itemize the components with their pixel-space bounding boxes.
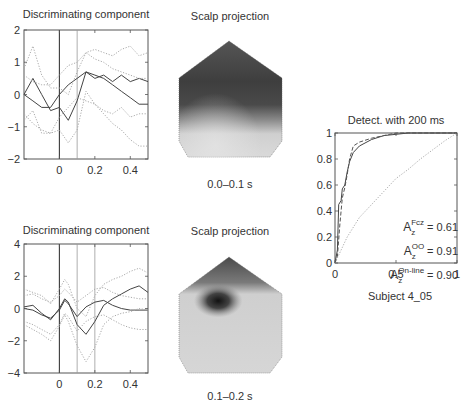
roc-y-tick-label: 0.2 — [317, 231, 332, 243]
top-scalp-map — [170, 36, 290, 162]
top-scalp-title: Scalp projection — [180, 10, 280, 22]
bottom-plot-x-tick-label: 0.2 — [87, 378, 102, 390]
bottom-plot-y-tick-label: 0 — [14, 303, 20, 315]
bottom-plot-y-tick-label: 2 — [14, 270, 20, 282]
roc-y-tick-label: 0.4 — [317, 205, 332, 217]
bottom-plot-x-tick-label: 0 — [56, 378, 62, 390]
roc-y-tick-label: 1 — [326, 127, 332, 139]
roc-legend-entry: AzFcz= 0.61 — [386, 218, 458, 242]
roc-legend-entry: AzOn-line= 0.90 — [386, 266, 458, 290]
bottom-plot-y-tick-label: 4 — [14, 238, 20, 250]
bottom-plot-axes-frame — [24, 244, 148, 373]
bottom-scalp-caption: 0.1–0.2 s — [180, 390, 280, 402]
roc-caption: Subject 4_05 — [350, 290, 450, 302]
roc-y-tick-label: 0.8 — [317, 153, 332, 165]
bottom-plot-x-tick-label: 0.4 — [123, 378, 138, 390]
roc-y-tick-label: 0.6 — [317, 179, 332, 191]
roc-x-tick-label: 0 — [332, 268, 338, 280]
roc-legend: AzFcz= 0.61AzOO= 0.91AzOn-line= 0.90 — [386, 218, 458, 290]
bottom-plot-series-line — [24, 268, 148, 316]
bottom-plot-series-line — [24, 309, 148, 362]
bottom-plot-y-tick-label: −2 — [7, 335, 20, 347]
roc-legend-entry: AzOO= 0.91 — [386, 242, 458, 266]
bottom-scalp-title: Scalp projection — [180, 225, 280, 237]
bottom-discriminating-plot: 420−2−400.20.4 — [0, 0, 160, 406]
bottom-plot-series-line — [24, 313, 148, 334]
top-scalp-caption: 0.0–0.1 s — [180, 178, 280, 190]
bottom-scalp-map — [170, 252, 290, 378]
bottom-plot-y-tick-label: −4 — [7, 367, 20, 379]
